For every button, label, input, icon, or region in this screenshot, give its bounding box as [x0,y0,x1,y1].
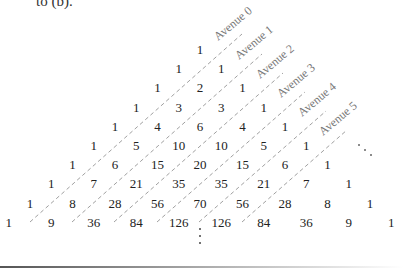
triangle-entry: 28 [109,196,122,212]
triangle-entry: 5 [261,138,268,154]
vertical-continuation-dots [197,228,203,249]
avenue-label-5: Avenue 5 [316,98,360,138]
triangle-entry: 9 [48,215,55,231]
triangle-entry: 4 [154,119,161,135]
triangle-entry: 7 [303,176,310,192]
page-bottom-rule [0,266,403,268]
triangle-entry: 1 [133,100,140,116]
triangle-entry: 1 [69,157,76,173]
triangle-entry: 84 [257,215,270,231]
triangle-entry: 28 [279,196,292,212]
triangle-entry: 1 [303,138,310,154]
triangle-entry: 35 [215,176,228,192]
triangle-entry: 1 [261,100,268,116]
triangle-entry: 1 [48,176,55,192]
triangle-entry: 15 [151,157,164,173]
triangle-entry: 15 [236,157,249,173]
triangle-entry: 1 [6,215,13,231]
triangle-entry: 36 [87,215,100,231]
triangle-entry: 1 [176,61,183,77]
triangle-entry: 1 [239,80,246,96]
triangle-entry: 1 [367,196,374,212]
triangle-entry: 20 [194,157,207,173]
triangle-entry: 56 [236,196,249,212]
triangle-entry: 1 [91,138,98,154]
triangle-entry: 35 [172,176,185,192]
triangle-entry: 10 [215,138,228,154]
triangle-entry: 70 [194,196,207,212]
triangle-entry: 1 [112,119,119,135]
triangle-entry: 8 [69,196,76,212]
triangle-entry: 3 [176,100,183,116]
triangle-entry: 7 [91,176,98,192]
triangle-entry: 1 [154,80,161,96]
triangle-entry: 5 [133,138,140,154]
triangle-entry: 1 [218,61,225,77]
triangle-entry: 36 [300,215,313,231]
triangle-entry: 126 [169,215,189,231]
triangle-entry: 6 [282,157,289,173]
triangle-entry: 56 [151,196,164,212]
triangle-entry: 8 [324,196,331,212]
triangle-entry: 21 [257,176,270,192]
triangle-entry: 4 [239,119,246,135]
triangle-entry: 3 [218,100,225,116]
triangle-entry: 21 [130,176,143,192]
triangle-entry: 84 [130,215,143,231]
triangle-entry: 1 [388,215,395,231]
triangle-entry: 1 [282,119,289,135]
triangle-entry: 10 [172,138,185,154]
triangle-entry: 1 [197,42,204,58]
triangle-entry: 1 [27,196,34,212]
triangle-entry: 126 [212,215,232,231]
triangle-entry: 2 [197,80,204,96]
triangle-entry: 1 [346,176,353,192]
triangle-entry: 6 [197,119,204,135]
triangle-entry: 6 [112,157,119,173]
triangle-entry: 9 [346,215,353,231]
triangle-entry: 1 [324,157,331,173]
